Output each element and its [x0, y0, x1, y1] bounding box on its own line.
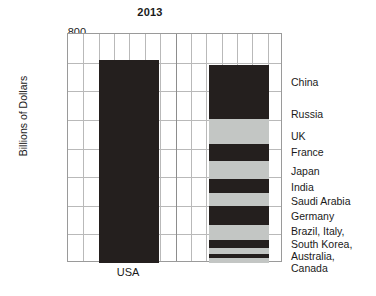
segment-label-uk: UK — [291, 130, 306, 142]
stack-segment[interactable] — [209, 119, 269, 144]
segment-label-russia: Russia — [291, 108, 323, 120]
segment-label-japan: Japan — [291, 165, 320, 177]
bar-stacked-others[interactable] — [209, 65, 269, 263]
stack-segment[interactable] — [209, 179, 269, 193]
segment-label-france: France — [291, 146, 324, 158]
segment-label-india: India — [291, 181, 314, 193]
stack-segment[interactable] — [209, 258, 269, 263]
chart-title: 2013 — [0, 6, 300, 18]
stack-segment[interactable] — [209, 206, 269, 225]
gridline-vertical — [206, 34, 207, 261]
stack-segment[interactable] — [209, 144, 269, 161]
bar-usa[interactable] — [99, 60, 159, 263]
segment-label-south-korea: South Korea, — [291, 238, 352, 250]
segment-label-china: China — [291, 76, 318, 88]
gridline-vertical — [176, 34, 177, 261]
gridline-vertical — [83, 34, 84, 261]
segment-label-saudi-arabia: Saudi Arabia — [291, 195, 351, 207]
segment-label-australia: Australia, — [291, 250, 335, 262]
x-axis-tick-usa: USA — [88, 266, 168, 278]
stack-segment[interactable] — [209, 240, 269, 249]
stack-segment[interactable] — [209, 193, 269, 206]
stack-segment[interactable] — [209, 161, 269, 179]
segment-label-canada: Canada — [291, 262, 328, 274]
chart-container: 2013 Billions of Dollars 800600400200 US… — [0, 0, 376, 296]
gridline-vertical — [160, 34, 161, 261]
segment-label-brazil-italy: Brazil, Italy, — [291, 225, 344, 237]
y-axis-label: Billions of Dollars — [17, 46, 29, 186]
plot-area — [67, 33, 282, 262]
stack-segment[interactable] — [209, 225, 269, 239]
gridline-vertical — [191, 34, 192, 261]
segment-label-germany: Germany — [291, 210, 334, 222]
stack-segment[interactable] — [209, 65, 269, 119]
